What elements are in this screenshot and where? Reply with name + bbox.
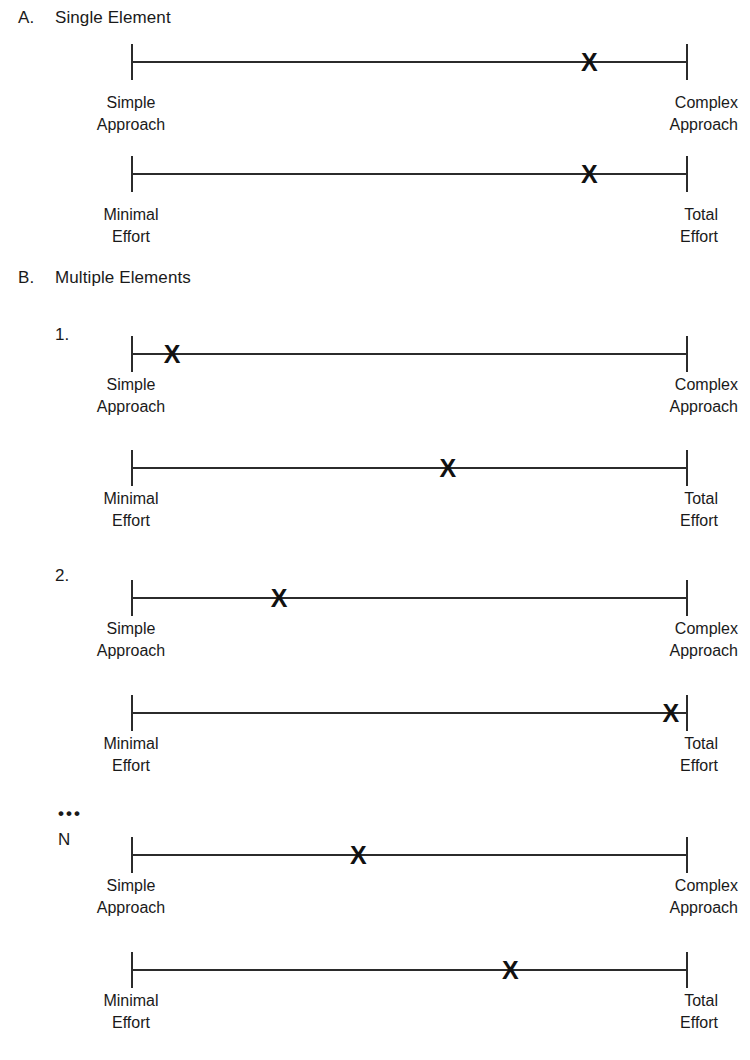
scale-marker-x[interactable]: X — [266, 583, 292, 613]
scale-axis-line — [131, 712, 688, 714]
anchor-line-1: Complex — [675, 877, 738, 894]
anchor-line-2: Effort — [0, 755, 718, 777]
element-index-label: 2. — [55, 566, 69, 586]
rating-scale: X — [131, 578, 688, 618]
scale-tick-right — [686, 837, 688, 873]
scale-tick-left — [131, 450, 133, 486]
scale-tick-left — [131, 580, 133, 616]
anchor-line-1: Total — [684, 735, 718, 752]
scale-axis-line — [131, 597, 688, 599]
scale-marker-x[interactable]: X — [576, 47, 602, 77]
anchor-line-2: Effort — [0, 226, 718, 248]
scale-right-anchor-label: TotalEffort — [0, 488, 718, 532]
rating-scale: X — [131, 154, 688, 194]
section-b-title: Multiple Elements — [55, 268, 191, 288]
scale-tick-right — [686, 695, 688, 731]
scale-tick-right — [686, 156, 688, 192]
anchor-line-2: Approach — [0, 396, 738, 418]
section-a-letter: A. — [18, 8, 34, 28]
anchor-line-2: Approach — [0, 640, 738, 662]
anchor-line-1: Complex — [675, 620, 738, 637]
scale-tick-right — [686, 580, 688, 616]
scale-tick-left — [131, 156, 133, 192]
scale-axis-line — [131, 854, 688, 856]
scale-tick-right — [686, 450, 688, 486]
continuation-ellipsis: ••• — [58, 808, 82, 820]
scale-right-anchor-label: ComplexApproach — [0, 374, 738, 418]
anchor-line-1: Complex — [675, 376, 738, 393]
scale-axis-line — [131, 173, 688, 175]
scale-axis-line — [131, 467, 688, 469]
scale-right-anchor-label: TotalEffort — [0, 204, 718, 248]
anchor-line-2: Effort — [0, 1012, 718, 1034]
scale-right-anchor-label: ComplexApproach — [0, 875, 738, 919]
scale-axis-line — [131, 969, 688, 971]
rating-scale: X — [131, 950, 688, 990]
scale-marker-x[interactable]: X — [576, 159, 602, 189]
scale-marker-x[interactable]: X — [159, 339, 185, 369]
figure-canvas: A.Single ElementXSimpleApproachComplexAp… — [0, 0, 750, 1060]
scale-tick-left — [131, 952, 133, 988]
scale-right-anchor-label: TotalEffort — [0, 733, 718, 777]
rating-scale: X — [131, 448, 688, 488]
scale-tick-left — [131, 336, 133, 372]
section-b-letter: B. — [18, 268, 34, 288]
scale-tick-left — [131, 44, 133, 80]
rating-scale: X — [131, 334, 688, 374]
scale-right-anchor-label: TotalEffort — [0, 990, 718, 1034]
scale-marker-x[interactable]: X — [345, 840, 371, 870]
scale-marker-x[interactable]: X — [497, 955, 523, 985]
scale-marker-x[interactable]: X — [435, 453, 461, 483]
section-a-title: Single Element — [55, 8, 171, 28]
scale-tick-right — [686, 44, 688, 80]
anchor-line-1: Total — [684, 490, 718, 507]
scale-tick-left — [131, 837, 133, 873]
anchor-line-2: Effort — [0, 510, 718, 532]
rating-scale: X — [131, 835, 688, 875]
scale-right-anchor-label: ComplexApproach — [0, 618, 738, 662]
scale-marker-x[interactable]: X — [658, 698, 684, 728]
element-index-label: N — [58, 830, 70, 850]
scale-tick-right — [686, 952, 688, 988]
scale-axis-line — [131, 353, 688, 355]
rating-scale: X — [131, 693, 688, 733]
element-index-label: 1. — [55, 325, 69, 345]
scale-tick-right — [686, 336, 688, 372]
scale-tick-left — [131, 695, 133, 731]
anchor-line-2: Approach — [0, 114, 738, 136]
scale-axis-line — [131, 61, 688, 63]
anchor-line-1: Total — [684, 992, 718, 1009]
scale-right-anchor-label: ComplexApproach — [0, 92, 738, 136]
anchor-line-2: Approach — [0, 897, 738, 919]
anchor-line-1: Total — [684, 206, 718, 223]
rating-scale: X — [131, 42, 688, 82]
anchor-line-1: Complex — [675, 94, 738, 111]
